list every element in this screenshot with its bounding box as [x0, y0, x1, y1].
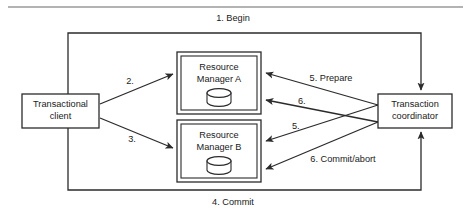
edge-client-to-rmb-path: [100, 118, 173, 148]
two-phase-commit-diagram: 1. Begin 4. Commit 2. 3. 5. Prepare 6. 5…: [0, 0, 471, 216]
node-resource-manager-a: Resource Manager A: [177, 52, 261, 114]
diagram-canvas: 1. Begin 4. Commit 2. 3. 5. Prepare 6. 5…: [0, 0, 471, 216]
node-transactional-client: Transactional client: [22, 94, 99, 128]
edge-label-client-to-rmb: 3.: [128, 134, 136, 144]
edge-label-vote-a: 6.: [298, 96, 306, 106]
node-transaction-coordinator: Transaction coordinator: [378, 94, 452, 128]
rmb-label-line2: Manager B: [197, 142, 242, 152]
edge-label-begin: 1. Begin: [216, 13, 250, 23]
edge-client-to-rma-path: [100, 74, 173, 104]
database-cylinder-icon: [207, 89, 231, 107]
edge-label-commit-abort: 6. Commit/abort: [310, 154, 376, 164]
node-resource-manager-b: Resource Manager B: [177, 120, 261, 182]
client-label-line2: client: [50, 111, 72, 121]
rmb-label-line1: Resource: [199, 130, 238, 140]
rma-label-line1: Resource: [199, 62, 238, 72]
edge-label-client-to-rma: 2.: [126, 76, 134, 86]
coordinator-label-line2: coordinator: [392, 111, 438, 121]
edge-label-prepare-b: 5.: [292, 121, 300, 131]
edge-label-commit: 4. Commit: [212, 197, 254, 207]
edge-label-prepare: 5. Prepare: [310, 73, 353, 83]
database-cylinder-icon: [207, 157, 231, 175]
rma-label-line2: Manager A: [197, 74, 242, 84]
coordinator-label-line1: Transaction: [391, 99, 439, 109]
client-label-line1: Transactional: [33, 99, 88, 109]
